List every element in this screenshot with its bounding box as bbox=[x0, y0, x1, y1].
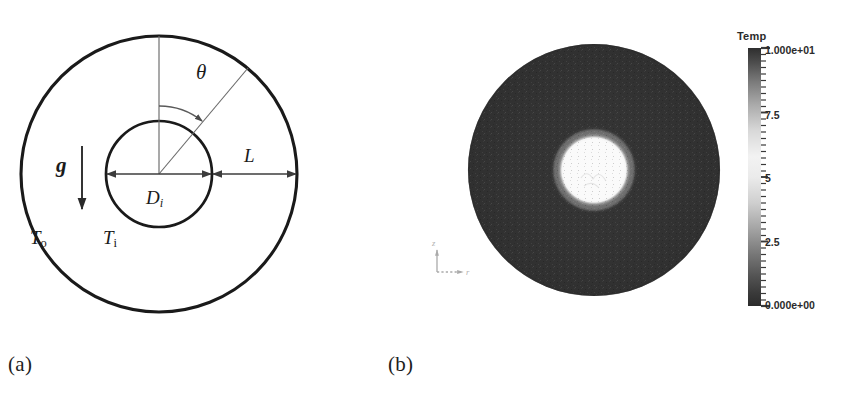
panel-a-schematic: θ g L Di To Ti bbox=[0, 0, 421, 402]
figure-root: θ g L Di To Ti bbox=[0, 0, 842, 402]
colorbar-tick-label-7p5: 7.5 bbox=[765, 110, 780, 121]
label-inner-temperature-base: T bbox=[103, 227, 114, 248]
label-inner-diameter-base: D bbox=[146, 187, 160, 208]
label-outer-temperature-base: T bbox=[30, 227, 41, 248]
panel-b-contour: z r bbox=[421, 0, 842, 402]
label-outer-temperature: To bbox=[30, 228, 47, 249]
colorbar-tick-label-min: 0.000e+00 bbox=[765, 300, 815, 311]
label-inner-temperature: Ti bbox=[103, 228, 117, 249]
label-gravity: g bbox=[56, 155, 67, 176]
colorbar-tick-label-5: 5 bbox=[765, 173, 771, 184]
axis-triad-label-z: z bbox=[431, 238, 436, 248]
label-gap-width: L bbox=[244, 146, 255, 165]
panel-a-drawing bbox=[0, 0, 421, 402]
caption-panel-a: (a) bbox=[8, 352, 32, 377]
panel-b-drawing: z r bbox=[421, 0, 842, 402]
colorbar-tick-label-2p5: 2.5 bbox=[765, 237, 780, 248]
label-outer-temperature-subscript: o bbox=[41, 236, 47, 250]
label-inner-diameter: Di bbox=[146, 188, 163, 209]
colorbar-title: Temp bbox=[737, 30, 766, 42]
caption-panel-b: (b) bbox=[388, 352, 413, 377]
theta-arc-arrow bbox=[159, 106, 202, 121]
label-inner-temperature-subscript: i bbox=[114, 236, 117, 250]
axis-triad-label-r: r bbox=[466, 267, 470, 277]
label-inner-diameter-subscript: i bbox=[160, 196, 163, 210]
label-theta: θ bbox=[196, 62, 206, 83]
axis-triad: z r bbox=[431, 238, 470, 277]
colorbar-tick-label-max: 1.000e+01 bbox=[765, 45, 815, 56]
colorbar-gradient bbox=[748, 48, 761, 306]
